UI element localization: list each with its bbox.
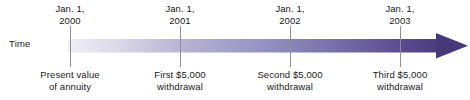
date-label: Jan. 1, 2000	[25, 3, 115, 26]
date-label-line2: 2001	[135, 15, 225, 27]
event-label-line1: Present value	[10, 69, 130, 81]
date-label-line2: 2000	[25, 15, 115, 27]
time-arrow	[68, 32, 470, 60]
date-label-line1: Jan. 1,	[25, 3, 115, 15]
event-label: Second $5,000 withdrawal	[230, 69, 350, 92]
date-label-line1: Jan. 1,	[355, 3, 445, 15]
date-label-line1: Jan. 1,	[135, 3, 225, 15]
tick-mark	[400, 26, 401, 67]
date-label: Jan. 1, 2001	[135, 3, 225, 26]
event-label-line2: of annuity	[10, 81, 130, 93]
event-label: First $5,000 withdrawal	[120, 69, 240, 92]
date-label-line2: 2003	[355, 15, 445, 27]
date-label-line1: Jan. 1,	[245, 3, 335, 15]
event-label: Present value of annuity	[10, 69, 130, 92]
date-label: Jan. 1, 2002	[245, 3, 335, 26]
tick-mark	[70, 26, 71, 67]
event-label-line1: First $5,000	[120, 69, 240, 81]
event-label-line2: withdrawal	[230, 81, 350, 93]
event-label: Third $5,000 withdrawal	[340, 69, 460, 92]
tick-mark	[290, 26, 291, 67]
date-label: Jan. 1, 2003	[355, 3, 445, 26]
event-label-line2: withdrawal	[340, 81, 460, 93]
event-label-line2: withdrawal	[120, 81, 240, 93]
event-label-line1: Third $5,000	[340, 69, 460, 81]
annuity-timeline-diagram: Time Jan. 1, 2000 Jan. 1,	[0, 0, 470, 100]
event-label-line1: Second $5,000	[230, 69, 350, 81]
date-label-line2: 2002	[245, 15, 335, 27]
axis-label-time: Time	[9, 38, 31, 49]
tick-mark	[180, 26, 181, 67]
